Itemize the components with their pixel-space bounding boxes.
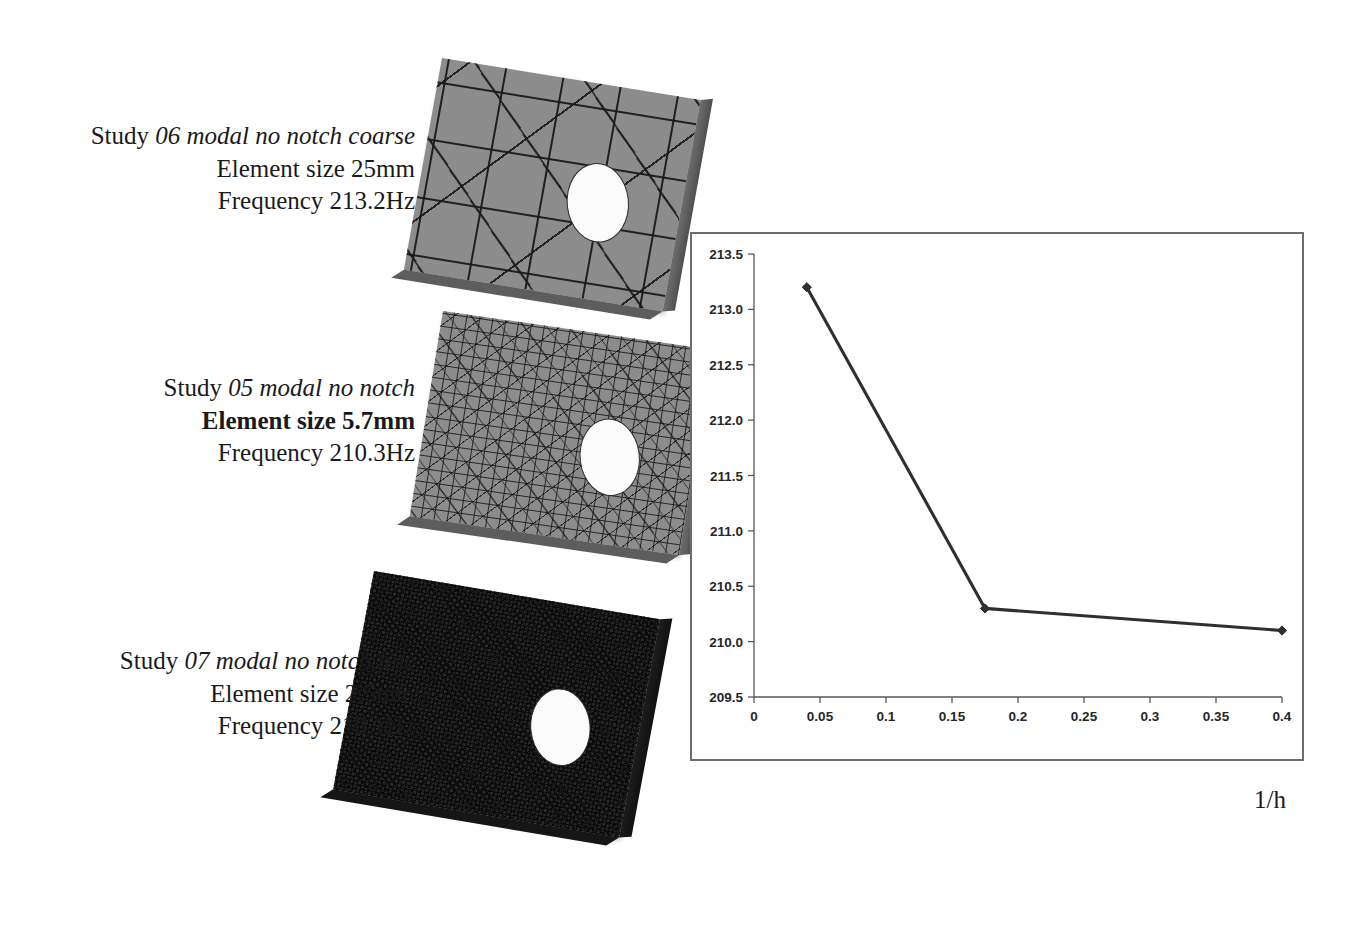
caption-medium-frequency: Frequency 210.3Hz	[55, 437, 415, 470]
chart-x-tick-label: 0.4	[1273, 709, 1292, 724]
chart-x-tick-label: 0.05	[807, 709, 834, 724]
caption-medium-element-size: Element size 5.7mm	[55, 405, 415, 438]
caption-fine-element-size: Element size 2.5mm	[20, 678, 415, 711]
chart-data-point	[1277, 626, 1286, 635]
caption-coarse-title-name: 06 modal no notch coarse	[155, 122, 415, 149]
mesh-pattern-coarse	[404, 58, 701, 312]
mesh-pattern-medium	[410, 311, 712, 555]
chart-x-tick-label: 0.2	[1009, 709, 1028, 724]
caption-coarse: Study 06 modal no notch coarse Element s…	[55, 120, 415, 218]
chart-x-tick-label: 0	[750, 709, 758, 724]
convergence-chart-svg: 209.5210.0210.5211.0211.5212.0212.5213.0…	[692, 234, 1298, 755]
caption-fine-title: Study 07 modal no notch fine	[20, 645, 415, 678]
chart-y-tick-label: 211.0	[710, 524, 743, 539]
caption-fine: Study 07 modal no notch fine Element siz…	[20, 645, 415, 743]
chart-y-tick-label: 213.0	[709, 302, 743, 317]
chart-y-tick-label: 210.0	[709, 635, 743, 650]
caption-coarse-title-prefix: Study	[91, 122, 156, 149]
caption-medium-title: Study 05 modal no notch	[55, 372, 415, 405]
caption-fine-title-prefix: Study	[120, 647, 185, 674]
chart-series-line	[807, 287, 1282, 630]
chart-x-tick-label: 0.3	[1141, 709, 1160, 724]
plate-face-coarse	[404, 58, 701, 312]
chart-y-tick-label: 212.5	[709, 358, 743, 373]
caption-coarse-frequency: Frequency 213.2Hz	[55, 185, 415, 218]
chart-x-tick-label: 0.25	[1071, 709, 1098, 724]
convergence-chart-panel: 209.5210.0210.5211.0211.5212.0212.5213.0…	[690, 232, 1304, 761]
chart-x-tick-label: 0.35	[1203, 709, 1230, 724]
caption-coarse-element-size: Element size 25mm	[55, 153, 415, 186]
chart-y-tick-label: 210.5	[709, 579, 743, 594]
caption-medium-title-name: 05 modal no notch	[228, 374, 415, 401]
caption-coarse-title: Study 06 modal no notch coarse	[55, 120, 415, 153]
chart-y-tick-label: 213.5	[709, 247, 743, 262]
chart-x-tick-label: 0.1	[877, 709, 896, 724]
caption-fine-frequency: Frequency 210.1Hz	[20, 710, 415, 743]
chart-y-tick-label: 209.5	[709, 690, 743, 705]
plate-face-medium	[410, 311, 712, 555]
chart-x-tick-label: 0.15	[939, 709, 966, 724]
caption-medium: Study 05 modal no notch Element size 5.7…	[55, 372, 415, 470]
plate-body-medium	[410, 311, 712, 555]
chart-y-tick-label: 211.5	[710, 469, 744, 484]
mesh-figure-fine	[372, 565, 702, 865]
chart-xaxis-title: 1/h	[1254, 786, 1286, 814]
caption-fine-title-name: 07 modal no notch fine	[184, 647, 415, 674]
plate-body-coarse	[404, 58, 701, 312]
caption-medium-title-prefix: Study	[164, 374, 229, 401]
chart-y-tick-label: 212.0	[709, 413, 743, 428]
